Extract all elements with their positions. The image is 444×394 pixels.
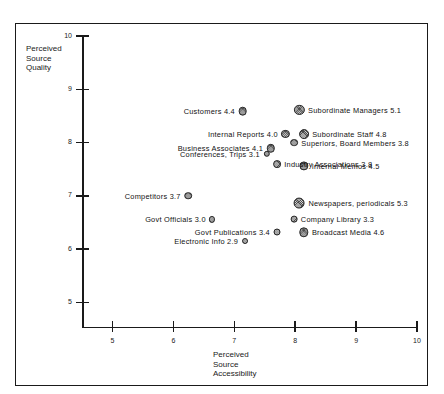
data-point-marker[interactable] (209, 216, 215, 222)
x-tick-label: 8 (285, 337, 305, 344)
x-tick-label: 7 (224, 337, 244, 344)
data-point-marker[interactable] (281, 129, 289, 137)
data-point-label: Conferences, Trips 3.1 (180, 149, 260, 158)
x-tick-mark (294, 321, 296, 332)
data-point-label: Newspapers, periodicals 5.3 (308, 199, 408, 208)
x-tick-mark (234, 321, 236, 332)
y-tick-label: 7 (52, 191, 72, 198)
data-point-label: Subordinate Managers 5.1 (308, 106, 401, 115)
data-point-marker[interactable] (273, 228, 280, 235)
x-tick-label: 9 (346, 337, 366, 344)
x-axis-title: Perceived Source Accessibility (213, 350, 257, 379)
data-point-marker[interactable] (238, 107, 247, 116)
y-axis-title: Perceived Source Quality (26, 44, 62, 73)
plot-area: Perceived Source Quality Perceived Sourc… (0, 0, 444, 394)
y-tick-label: 5 (52, 298, 72, 305)
y-tick-mark (76, 195, 89, 197)
data-point-label: Industry Associations 3.8 (284, 160, 372, 169)
y-axis-line (82, 36, 84, 328)
x-tick-label: 10 (407, 337, 427, 344)
y-tick-label: 6 (52, 245, 72, 252)
scatter-plot-figure: Perceived Source Quality Perceived Sourc… (0, 0, 444, 394)
data-point-label: Govt Publications 3.4 (195, 227, 270, 236)
data-point-label: Govt Officials 3.0 (145, 215, 206, 224)
y-tick-mark (76, 89, 89, 91)
data-point-label: Company Library 3.3 (301, 215, 374, 224)
data-point-marker[interactable] (290, 139, 298, 147)
x-tick-mark (355, 321, 357, 332)
x-tick-mark (416, 321, 418, 332)
data-point-marker[interactable] (184, 192, 192, 200)
y-tick-label: 9 (52, 85, 72, 92)
data-point-marker[interactable] (294, 198, 305, 209)
x-tick-label: 5 (102, 337, 122, 344)
data-point-marker[interactable] (273, 161, 281, 169)
data-point-label: Customers 4.4 (184, 107, 235, 116)
data-point-label: Electronic Info 2.9 (174, 236, 238, 245)
data-point-marker[interactable] (299, 227, 308, 236)
x-tick-label: 6 (163, 337, 183, 344)
data-point-marker[interactable] (263, 151, 269, 157)
data-point-marker[interactable] (242, 238, 248, 244)
x-axis-line (82, 327, 417, 329)
data-point-marker[interactable] (294, 105, 304, 115)
y-tick-label: 8 (52, 138, 72, 145)
data-point-marker[interactable] (291, 216, 298, 223)
y-tick-mark (76, 35, 89, 37)
data-point-label: Superiors, Board Members 3.8 (301, 138, 409, 147)
data-point-label: Competitors 3.7 (125, 191, 181, 200)
y-tick-label: 10 (52, 32, 72, 39)
y-tick-mark (76, 302, 89, 304)
x-tick-mark (173, 321, 175, 332)
y-tick-mark (76, 142, 89, 144)
x-tick-mark (112, 321, 114, 332)
data-point-label: Broadcast Media 4.6 (312, 228, 385, 237)
y-tick-mark (76, 248, 89, 250)
data-point-label: Internal Reports 4.0 (208, 129, 278, 138)
